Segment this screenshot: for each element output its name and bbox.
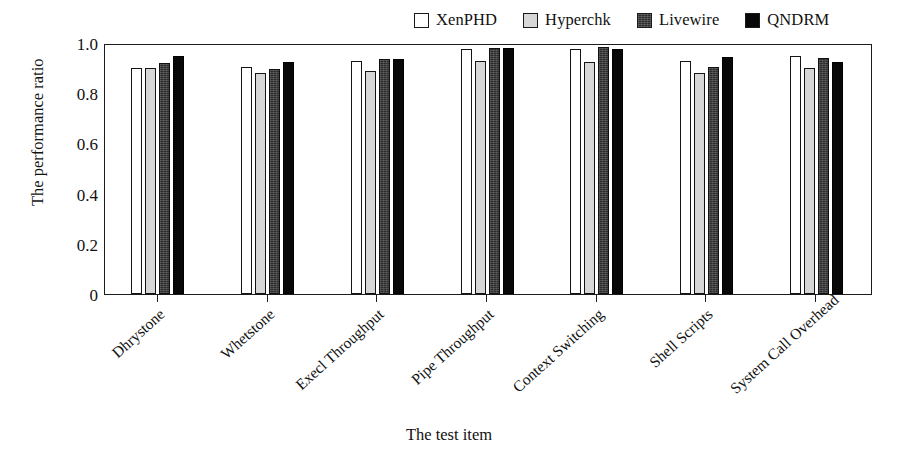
legend-swatch-icon-livewire xyxy=(637,13,652,28)
bar-hyperchk-shell-scripts xyxy=(694,73,705,294)
bar-livewire-shell-scripts xyxy=(708,67,719,294)
y-axis-tick-labels: 00.20.40.60.81.0 xyxy=(0,0,98,469)
bar-group xyxy=(790,45,843,294)
legend-label-hyperchk: Hyperchk xyxy=(545,12,611,29)
x-tick-label: Whetstone xyxy=(179,306,277,396)
y-tick-label: 0.2 xyxy=(36,236,98,253)
legend-swatch-icon-qndrm xyxy=(745,13,760,28)
bar-qndrm-dhrystone xyxy=(173,56,184,294)
y-tick-label: 0 xyxy=(36,287,98,304)
legend-swatch-icon-xenphd xyxy=(414,13,429,28)
plot-area xyxy=(105,45,871,294)
x-tick-mark xyxy=(267,295,268,302)
x-tick-label: System Call Overhead xyxy=(727,306,825,396)
bar-qndrm-pipe-throughput xyxy=(503,48,514,294)
x-tick-label: Pipe Throughput xyxy=(398,306,496,396)
bar-xenphd-system-call-overhead xyxy=(790,56,801,294)
bar-hyperchk-system-call-overhead xyxy=(804,68,815,294)
bar-group xyxy=(680,45,733,294)
bar-livewire-context-switching xyxy=(598,47,609,294)
x-tick-mark xyxy=(705,295,706,302)
bar-qndrm-system-call-overhead xyxy=(832,62,843,294)
x-axis-title: The test item xyxy=(0,427,898,444)
bar-livewire-execl-throughput xyxy=(379,59,390,294)
x-tick-mark xyxy=(157,295,158,302)
x-tick-label: Shell Scripts xyxy=(618,306,716,396)
y-tick-label: 0.4 xyxy=(36,186,98,203)
x-tick-mark xyxy=(596,295,597,302)
x-tick-mark xyxy=(486,295,487,302)
bar-xenphd-pipe-throughput xyxy=(461,49,472,294)
bar-qndrm-execl-throughput xyxy=(393,59,404,294)
bar-qndrm-whetstone xyxy=(283,62,294,294)
y-tick-label: 1.0 xyxy=(36,36,98,53)
y-tick-label: 0.6 xyxy=(36,136,98,153)
bar-xenphd-context-switching xyxy=(570,49,581,294)
bar-livewire-dhrystone xyxy=(159,63,170,294)
bar-hyperchk-dhrystone xyxy=(145,68,156,294)
plot-frame xyxy=(104,44,872,295)
bar-qndrm-shell-scripts xyxy=(722,57,733,294)
bar-group xyxy=(241,45,294,294)
bar-xenphd-whetstone xyxy=(241,67,252,294)
legend-label-qndrm: QNDRM xyxy=(767,12,829,29)
bar-group xyxy=(461,45,514,294)
legend-entry-livewire: Livewire xyxy=(637,12,719,29)
legend-entry-xenphd: XenPHD xyxy=(414,12,497,29)
bar-group xyxy=(351,45,404,294)
legend-label-livewire: Livewire xyxy=(659,12,719,29)
bar-chart-figure: XenPHD Hyperchk Livewire QNDRM The perfo… xyxy=(0,0,898,469)
bar-hyperchk-context-switching xyxy=(584,62,595,294)
bar-group xyxy=(570,45,623,294)
x-tick-mark xyxy=(815,295,816,302)
legend-entry-hyperchk: Hyperchk xyxy=(523,12,611,29)
bar-xenphd-execl-throughput xyxy=(351,61,362,294)
y-tick-label: 0.8 xyxy=(36,86,98,103)
x-tick-label: Execl Throughput xyxy=(289,306,387,396)
chart-legend: XenPHD Hyperchk Livewire QNDRM xyxy=(414,12,829,29)
x-tick-mark xyxy=(376,295,377,302)
bar-group xyxy=(131,45,184,294)
legend-label-xenphd: XenPHD xyxy=(436,12,497,29)
bar-livewire-system-call-overhead xyxy=(818,58,829,294)
bar-livewire-whetstone xyxy=(269,69,280,294)
bar-hyperchk-pipe-throughput xyxy=(475,61,486,294)
legend-swatch-icon-hyperchk xyxy=(523,13,538,28)
x-tick-label: Context Switching xyxy=(508,306,606,396)
bar-qndrm-context-switching xyxy=(612,49,623,294)
legend-entry-qndrm: QNDRM xyxy=(745,12,829,29)
bar-hyperchk-whetstone xyxy=(255,73,266,294)
bar-xenphd-dhrystone xyxy=(131,68,142,294)
bar-hyperchk-execl-throughput xyxy=(365,71,376,294)
bar-livewire-pipe-throughput xyxy=(489,48,500,294)
bar-xenphd-shell-scripts xyxy=(680,61,691,294)
